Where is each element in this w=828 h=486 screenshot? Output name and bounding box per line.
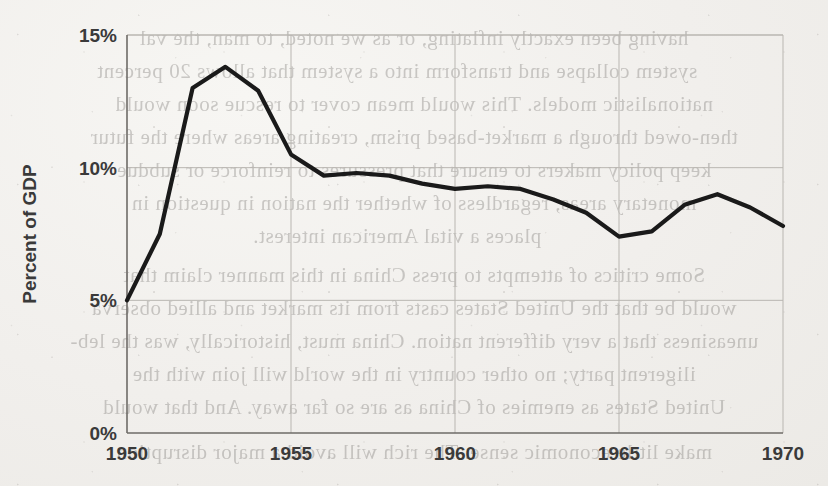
x-axis-tick-label: 1960: [434, 443, 476, 464]
y-axis-tick-label: 5%: [90, 290, 118, 311]
y-axis-tick-label: 10%: [79, 158, 117, 179]
x-axis-tick-label: 1955: [270, 443, 313, 464]
y-axis-tick-label: 15%: [79, 25, 117, 46]
chart-gridlines: [127, 35, 783, 433]
y-axis-tick-labels: 0%5%10%15%: [79, 25, 117, 444]
x-axis-tick-labels: 19501955196019651970: [106, 443, 804, 464]
y-axis-tick-label: 0%: [90, 423, 118, 444]
y-axis-title: Percent of GDP: [19, 164, 40, 304]
line-chart-figure: Percent of GDP 0%5%10%15% 19501955196019…: [0, 0, 828, 486]
x-axis-tick-label: 1965: [598, 443, 641, 464]
x-axis-tick-label: 1950: [106, 443, 148, 464]
x-axis-tick-label: 1970: [762, 443, 804, 464]
chart-canvas: Percent of GDP 0%5%10%15% 19501955196019…: [0, 0, 828, 486]
